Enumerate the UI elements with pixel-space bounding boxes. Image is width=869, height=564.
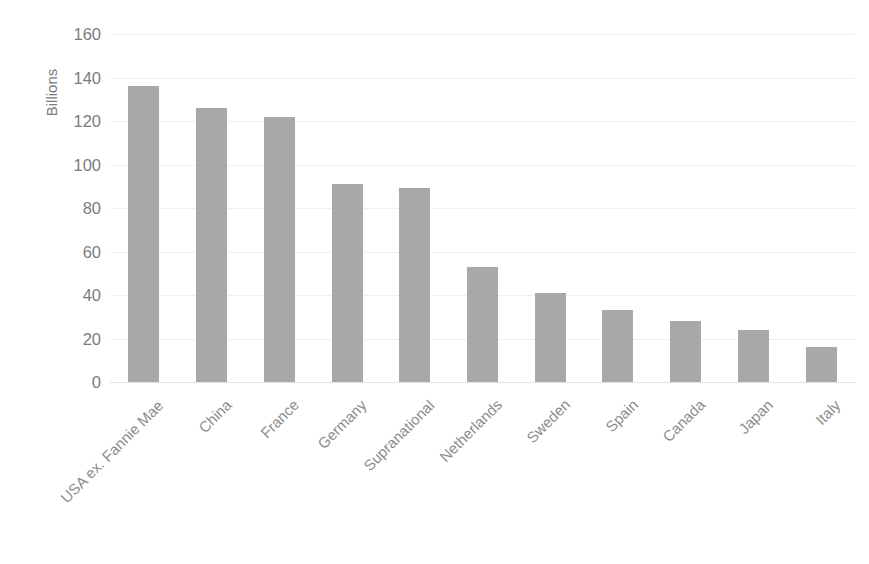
x-tick-label: Italy <box>812 396 843 427</box>
x-tick-label: Japan <box>735 396 776 437</box>
bar[interactable] <box>264 117 295 382</box>
y-tick-label: 60 <box>83 243 101 260</box>
x-tick-label: China <box>195 396 235 436</box>
bar-chart: Billions 020406080100120140160 USA ex. F… <box>0 0 869 564</box>
axis-baseline <box>110 382 855 383</box>
bar[interactable] <box>196 108 227 382</box>
bar[interactable] <box>738 330 769 382</box>
y-tick-label: 20 <box>83 330 101 347</box>
y-axis-title: Billions <box>43 33 60 153</box>
bar[interactable] <box>602 310 633 382</box>
bar[interactable] <box>332 184 363 382</box>
plot-area: 020406080100120140160 <box>110 34 855 382</box>
gridline <box>110 78 855 79</box>
gridline <box>110 34 855 35</box>
y-tick-label: 160 <box>73 26 101 43</box>
x-tick-label: Spain <box>602 396 641 435</box>
bar[interactable] <box>128 86 159 382</box>
y-tick-label: 120 <box>73 113 101 130</box>
bar[interactable] <box>806 347 837 382</box>
x-tick-label: France <box>257 396 302 441</box>
y-tick-label: 0 <box>92 374 101 391</box>
bar[interactable] <box>670 321 701 382</box>
y-tick-label: 40 <box>83 287 101 304</box>
x-tick-label: USA ex. Fannie Mae <box>57 396 166 505</box>
x-tick-label: Sweden <box>523 396 573 446</box>
x-tick-label: Germany <box>314 396 370 452</box>
y-tick-label: 80 <box>83 200 101 217</box>
y-tick-label: 100 <box>73 156 101 173</box>
x-tick-label: Canada <box>659 396 708 445</box>
bar[interactable] <box>467 267 498 382</box>
y-tick-label: 140 <box>73 69 101 86</box>
x-tick-label: Netherlands <box>436 396 505 465</box>
bar[interactable] <box>535 293 566 382</box>
bar[interactable] <box>399 188 430 382</box>
x-tick-label: Supranational <box>360 396 437 473</box>
